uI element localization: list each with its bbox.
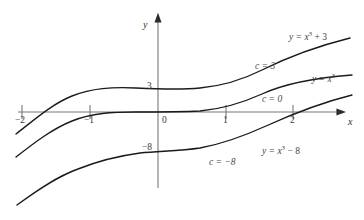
curve-label-x3-plus-3-tail: + 3 (312, 32, 327, 42)
curve-label-x3: y = x3 (312, 73, 335, 85)
axis-group (18, 22, 337, 188)
x-tick-label-minus-1: −1 (84, 116, 94, 126)
constant-label-c-minus-8: c = −8 (209, 158, 236, 168)
y-axis-label: y (143, 20, 147, 30)
curve-label-x3-minus-8-tail: − 8 (285, 146, 300, 156)
y-tick-label-3: 3 (147, 82, 152, 92)
curve-label-x3-base: y = x (312, 74, 332, 84)
curve-label-x3-minus-8-base: y = x (262, 146, 282, 156)
x-tick-label-minus-2: −2 (15, 116, 25, 126)
figure-container: y x 0 −2 −1 1 2 3 −8 y = x3 + 3 y = x3 y… (0, 0, 364, 220)
constant-label-c-0: c = 0 (262, 95, 282, 105)
x-tick-label-2: 2 (290, 116, 295, 126)
constant-label-c-3: c = 3 (255, 62, 275, 72)
x-axis-label: x (348, 117, 352, 127)
curve-x3-plus-3 (16, 38, 350, 134)
y-tick-label-minus-8: −8 (142, 143, 152, 153)
curve-label-x3-minus-8: y = x3 − 8 (262, 145, 300, 157)
curve-label-x3-exponent: 3 (332, 72, 336, 80)
curve-label-x3-plus-3: y = x3 + 3 (289, 31, 327, 43)
curve-group (16, 38, 352, 205)
origin-label: 0 (162, 116, 167, 126)
x-tick-label-1: 1 (223, 116, 228, 126)
curve-label-x3-plus-3-base: y = x (289, 32, 309, 42)
curve-x3 (16, 75, 352, 157)
